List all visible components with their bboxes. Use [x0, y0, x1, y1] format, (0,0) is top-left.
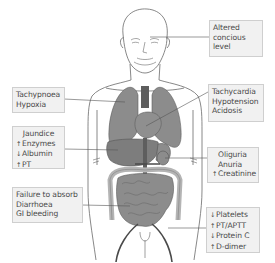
label-line: Hypotension — [212, 97, 260, 107]
coagulation-effects-label: ↓Platelets ↑PT/APTT ↓Protein C ↑D-dimer — [206, 207, 260, 253]
label-line: GI bleeding — [16, 209, 79, 219]
label-line: Failure to absorb — [16, 190, 79, 200]
liver-effects-label: Jaundice ↑Enzymes ↓Albumin ↑PT — [12, 126, 65, 169]
label-line: Tachycardia — [212, 87, 260, 97]
label-line: Jaundice — [16, 129, 61, 139]
femoral-vessels — [116, 224, 172, 262]
label-line: Acidosis — [212, 106, 260, 116]
label-line: Oliguria — [212, 150, 255, 160]
label-line: Diarrhoea — [16, 200, 79, 210]
label-line: Altered — [213, 23, 259, 33]
brain-effects-label: Altered concious level — [209, 20, 263, 57]
gut-effects-label: Failure to absorb Diarrhoea GI bleeding — [12, 187, 83, 223]
label-line: PT — [22, 160, 31, 169]
label-line: Creatinine — [218, 169, 256, 178]
heart-effects-label: Tachycardia Hypotension Acidosis — [208, 84, 264, 122]
label-line: Anuria — [212, 160, 255, 170]
small-intestine — [117, 174, 174, 227]
label-line: Platelets — [216, 210, 248, 219]
label-line: Albumin — [22, 149, 53, 158]
kidney-effects-label: Oliguria Anuria ↑Creatinine — [207, 147, 259, 183]
label-line: Protein C — [216, 231, 249, 240]
label-line: D-dimer — [216, 242, 246, 251]
label-line: Enzymes — [22, 139, 55, 148]
bladder — [140, 232, 150, 258]
lung-effects-label: Tachypnoea Hypoxia — [12, 87, 65, 113]
label-line: Hypoxia — [16, 100, 61, 110]
label-line: concious — [213, 33, 259, 43]
label-line: level — [213, 42, 259, 52]
label-line: PT/APTT — [216, 221, 246, 230]
liver — [107, 139, 159, 166]
label-line: Tachypnoea — [16, 90, 61, 100]
